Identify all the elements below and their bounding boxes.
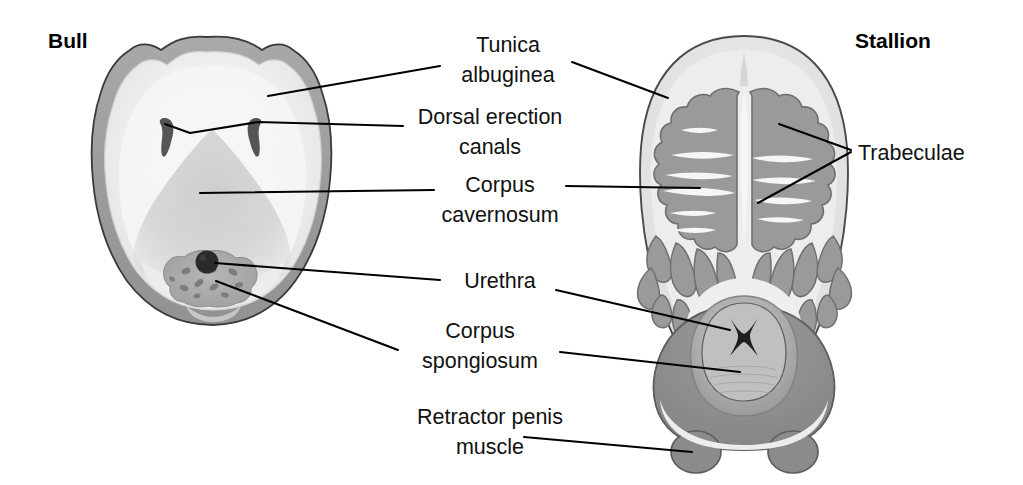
anatomy-figure: Bull Stallion Tunica albuginea Dorsal er…	[0, 0, 1023, 485]
label-dorsal-erection-canals: Dorsal erection	[418, 105, 563, 129]
label-corpus-spongiosum-line2: spongiosum	[422, 349, 538, 373]
label-urethra: Urethra	[464, 269, 536, 293]
label-trabeculae: Trabeculae	[858, 141, 965, 165]
label-corpus-spongiosum: Corpus	[445, 319, 514, 343]
leader-retractor-muscle	[524, 437, 692, 452]
leader-tunica-stallion	[572, 62, 668, 98]
species-title-bull: Bull	[48, 29, 88, 52]
label-dorsal-erection-canals-line2: canals	[459, 135, 521, 159]
species-title-stallion: Stallion	[855, 29, 931, 52]
bull-cross-section	[92, 37, 332, 325]
anatomy-svg: Bull Stallion Tunica albuginea Dorsal er…	[0, 0, 1023, 485]
label-corpus-cavernosum: Corpus	[465, 173, 534, 197]
label-retractor-penis-muscle-line2: muscle	[456, 435, 524, 459]
stallion-cross-section	[638, 36, 852, 473]
label-retractor-penis-muscle: Retractor penis	[417, 405, 563, 429]
label-tunica-albuginea-line2: albuginea	[461, 63, 554, 87]
label-corpus-cavernosum-line2: cavernosum	[441, 203, 558, 227]
label-tunica-albuginea: Tunica	[476, 33, 540, 57]
stallion-spongiosum-core	[702, 303, 786, 401]
bull-urethra-highlight	[200, 255, 206, 261]
